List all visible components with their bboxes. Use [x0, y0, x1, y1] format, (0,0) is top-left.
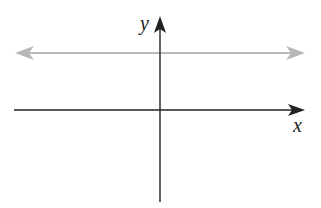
- diagram-svg: y x: [0, 0, 321, 208]
- x-axis-label: x: [292, 114, 302, 136]
- coordinate-plane-diagram: y x: [0, 0, 321, 208]
- y-axis: [154, 16, 166, 202]
- y-axis-label: y: [138, 12, 149, 35]
